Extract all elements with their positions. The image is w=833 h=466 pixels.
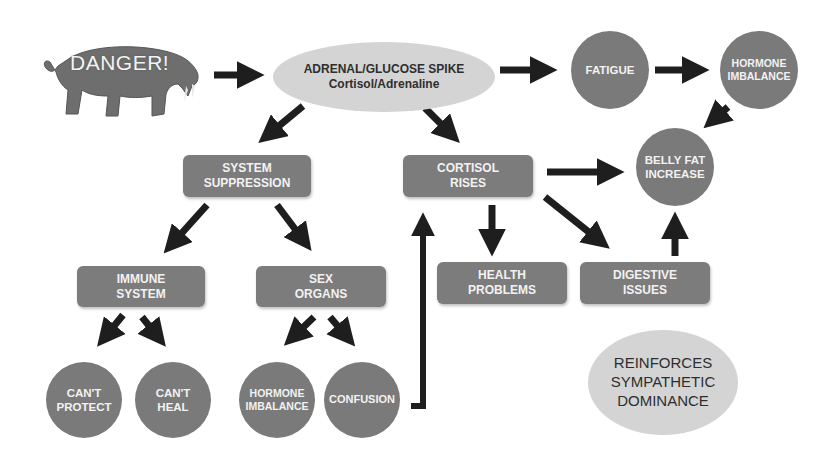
reinforces-sympathetic-dominance-node: REINFORCES SYMPATHETIC DOMINANCE	[588, 330, 738, 435]
immune-line1: IMMUNE	[117, 272, 166, 287]
arrow-hormone-to-bellyfat	[713, 107, 728, 120]
arrow-sex-to-confusion	[330, 317, 347, 337]
diagram-canvas: DANGER! ADRENAL/GLUCOSE SPIKE Cortisol/A…	[0, 0, 833, 466]
hormone-imbalance-top-node: HORMONE IMBALANCE	[720, 31, 798, 109]
cant-protect-line1: CAN'T	[67, 386, 102, 400]
arrow-sex-to-hormone	[293, 317, 314, 337]
arrow-suppression-to-sex	[277, 205, 304, 241]
confusion-node: CONFUSION	[324, 362, 400, 438]
system-suppression-node: SYSTEM SUPPRESSION	[183, 155, 311, 197]
adrenal-glucose-spike-node: ADRENAL/GLUCOSE SPIKE Cortisol/Adrenalin…	[273, 42, 495, 112]
digestive-line2: ISSUES	[623, 283, 667, 298]
immune-line2: SYSTEM	[116, 287, 165, 302]
arrow-spike-to-cortisol	[425, 108, 451, 134]
arrow-cortisol-to-digestive	[545, 197, 600, 241]
immune-system-node: IMMUNE SYSTEM	[77, 266, 205, 307]
cortisol-line1: CORTISOL	[437, 161, 499, 176]
danger-label: DANGER!	[70, 51, 169, 75]
spike-line1: ADRENAL/GLUCOSE SPIKE	[304, 62, 465, 77]
cant-protect-line2: PROTECT	[57, 400, 112, 414]
arrow-confusion-to-cortisol	[411, 223, 423, 406]
cant-heal-line1: CAN'T	[156, 386, 191, 400]
fatigue-node: FATIGUE	[571, 31, 649, 109]
belly-fat-increase-node: BELLY FAT INCREASE	[636, 128, 714, 206]
arrow-immune-to-cantheal	[142, 317, 158, 337]
arrow-suppression-to-immune	[172, 205, 207, 244]
belly-fat-line2: INCREASE	[645, 167, 704, 181]
health-problems-node: HEALTH PROBLEMS	[437, 262, 567, 304]
spike-line2: Cortisol/Adrenaline	[329, 77, 440, 92]
sex-organs-line2: ORGANS	[295, 287, 348, 302]
digestive-issues-node: DIGESTIVE ISSUES	[580, 262, 710, 304]
cant-heal-node: CAN'T HEAL	[135, 362, 211, 438]
belly-fat-line1: BELLY FAT	[645, 153, 706, 167]
arrow-immune-to-cantprotect	[105, 315, 123, 337]
fatigue-label: FATIGUE	[586, 63, 635, 77]
arrow-spike-to-suppression	[268, 106, 303, 135]
conclusion-line3: DOMINANCE	[617, 392, 709, 411]
hormone-bottom-line2: IMBALANCE	[246, 400, 309, 413]
cant-protect-node: CAN'T PROTECT	[46, 362, 122, 438]
hormone-top-line1: HORMONE	[732, 57, 787, 70]
conclusion-line1: REINFORCES	[614, 354, 712, 373]
hormone-bottom-line1: HORMONE	[250, 387, 305, 400]
conclusion-line2: SYMPATHETIC	[611, 373, 715, 392]
hormone-top-line2: IMBALANCE	[728, 70, 791, 83]
hormone-imbalance-bottom-node: HORMONE IMBALANCE	[239, 362, 315, 438]
sex-organs-line1: SEX	[309, 272, 333, 287]
cant-heal-line2: HEAL	[157, 400, 188, 414]
digestive-line1: DIGESTIVE	[613, 268, 677, 283]
confusion-label: CONFUSION	[329, 393, 395, 407]
health-line1: HEALTH	[478, 268, 526, 283]
suppression-line2: SUPPRESSION	[204, 176, 291, 191]
health-line2: PROBLEMS	[468, 283, 536, 298]
suppression-line1: SYSTEM	[222, 161, 271, 176]
cortisol-line2: RISES	[450, 176, 486, 191]
sex-organs-node: SEX ORGANS	[256, 266, 386, 307]
cortisol-rises-node: CORTISOL RISES	[403, 155, 533, 197]
